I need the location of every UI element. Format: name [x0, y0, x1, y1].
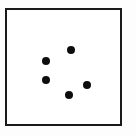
square-frame: [5, 8, 122, 126]
figure-canvas: [0, 0, 136, 136]
dot: [67, 46, 75, 54]
dot: [83, 81, 91, 89]
dot: [65, 91, 73, 99]
dot: [42, 57, 50, 65]
dot: [42, 76, 50, 84]
